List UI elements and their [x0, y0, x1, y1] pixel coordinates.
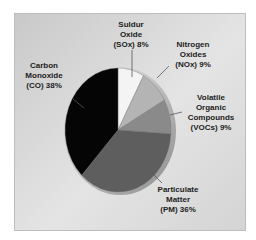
label-line: Nitrogen: [168, 40, 218, 50]
label-line: Particulate: [148, 185, 208, 195]
label-line: Volatile: [180, 93, 242, 103]
label-line: Organic: [180, 103, 242, 113]
label-pm: Particulate Matter (PM) 36%: [148, 185, 208, 215]
label-line: Matter: [148, 195, 208, 205]
label-sox: Suldur Oxide (SOx) 8%: [106, 20, 156, 50]
label-co: Carbon Monoxide (CO) 38%: [14, 61, 74, 91]
label-line: Carbon: [14, 61, 74, 71]
label-line: Suldur: [106, 20, 156, 30]
label-voc: Volatile Organic Compounds (VOCs) 9%: [180, 93, 242, 133]
label-line: Oxide: [106, 30, 156, 40]
label-line: Monoxide: [14, 71, 74, 81]
label-line: (VOCs) 9%: [180, 123, 242, 133]
label-line: Compounds: [180, 113, 242, 123]
label-line: (NOx) 9%: [168, 60, 218, 70]
label-line: (CO) 38%: [14, 81, 74, 91]
label-line: (PM) 36%: [148, 205, 208, 215]
label-nox: Nitrogen Oxides (NOx) 9%: [168, 40, 218, 70]
label-line: (SOx) 8%: [106, 40, 156, 50]
label-line: Oxides: [168, 50, 218, 60]
